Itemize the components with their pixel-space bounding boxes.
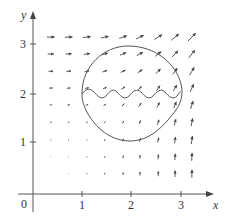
arrowhead-icon: [51, 87, 53, 89]
field-arrow: [87, 140, 88, 141]
arrowhead-icon: [69, 35, 72, 39]
y-tick-1: 1: [20, 135, 26, 149]
x-axis-label: x: [212, 198, 219, 212]
arrowhead-icon: [69, 52, 72, 55]
vector-field-diagram: x y 0 1 2 3 1 2 3: [0, 0, 232, 219]
x-tick-2: 2: [128, 198, 134, 212]
y-tick-2: 2: [20, 87, 26, 101]
arrowhead-icon: [190, 170, 194, 173]
arrowhead-icon: [69, 70, 71, 72]
y-tick-3: 3: [20, 37, 26, 51]
arrowhead-icon: [157, 171, 160, 173]
arrowhead-icon: [174, 171, 177, 174]
field-arrow: [104, 139, 105, 141]
arrowhead-icon: [174, 154, 177, 157]
wavy-curve: [82, 89, 181, 98]
arrowhead-icon: [52, 35, 55, 39]
field-arrow: [86, 122, 88, 123]
arrowhead-icon: [105, 35, 108, 39]
y-axis-label: y: [20, 8, 27, 22]
vector-field-arrows: [47, 33, 196, 178]
closed-loop-curve: [82, 46, 182, 141]
arrowhead-icon: [139, 155, 141, 157]
arrowhead-icon: [51, 70, 53, 72]
axis-ticks: 1 2 3 1 2 3: [20, 37, 184, 212]
arrowhead-icon: [190, 118, 194, 121]
origin-label: 0: [21, 197, 27, 211]
x-axis-arrow-icon: [206, 191, 214, 197]
x-tick-3: 3: [178, 198, 184, 212]
arrowhead-icon: [139, 172, 141, 174]
field-arrow: [87, 156, 88, 157]
axes: x y 0: [18, 8, 219, 212]
x-tick-1: 1: [79, 198, 85, 212]
y-axis-arrow-icon: [30, 11, 36, 19]
arrowhead-icon: [51, 52, 54, 55]
field-arrow: [104, 121, 106, 123]
arrowhead-icon: [69, 87, 71, 89]
arrowhead-icon: [190, 153, 194, 156]
